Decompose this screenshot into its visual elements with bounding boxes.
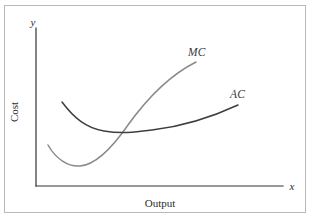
- x-axis-title: Output: [145, 197, 176, 209]
- mc-curve-label: MC: [187, 46, 206, 58]
- figure-container: y x MC AC Cost Output: [0, 0, 314, 221]
- marginal-cost-curve: [48, 62, 196, 166]
- y-axis-title: Cost: [8, 102, 20, 122]
- average-cost-curve: [62, 102, 238, 133]
- x-axis-variable-label: x: [289, 180, 295, 192]
- y-axis-variable-label: y: [30, 16, 36, 28]
- ac-curve-label: AC: [229, 88, 245, 100]
- cost-curves-plot: y x MC AC Cost Output: [0, 0, 314, 221]
